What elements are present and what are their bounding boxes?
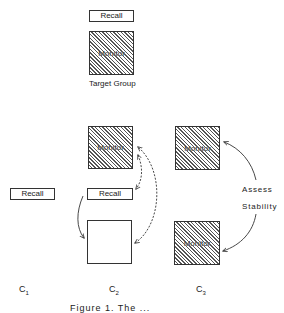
- condition-c1-label: C1: [19, 284, 29, 296]
- condition-c3-label: C3: [196, 284, 206, 296]
- condition-c2-label: C2: [109, 284, 119, 296]
- arrow-recall-to-box: [78, 196, 84, 238]
- arrow-box-to-monitor: [135, 147, 157, 243]
- arrow-monitor-recall-double: [136, 155, 142, 189]
- arrow-assess-to-top-monitor: [224, 142, 256, 180]
- figure-caption: Figure 1. The ...: [70, 303, 150, 313]
- arrow-stability-to-bottom-monitor: [223, 214, 256, 251]
